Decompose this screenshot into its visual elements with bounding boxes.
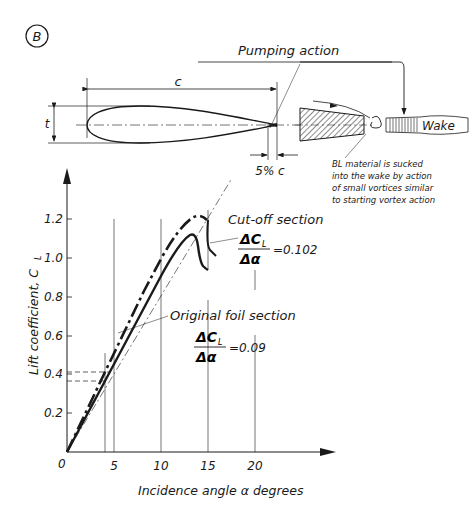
foil-diagram: c t 5% c Pumping action xyxy=(45,43,468,205)
lift-chart: 0.2 0.4 0.6 0.8 1.0 1.2 0 5 10 15 20 xyxy=(26,168,336,498)
svg-text:ΔC: ΔC xyxy=(195,329,218,345)
x-tick-0: 0 xyxy=(58,457,66,471)
x-axis-arrow-icon xyxy=(320,448,336,456)
note-line-1: BL material is sucked xyxy=(332,159,424,169)
cutoff-label: Cut-off section xyxy=(228,212,323,227)
x-tick-20: 20 xyxy=(247,459,263,473)
svg-text:B: B xyxy=(33,29,42,44)
svg-text:L: L xyxy=(262,240,266,249)
svg-text:Δα: Δα xyxy=(195,349,217,365)
svg-text:ΔC: ΔC xyxy=(239,231,262,247)
x-tick-15: 15 xyxy=(200,459,215,473)
original-slope-value: =0.09 xyxy=(229,341,266,355)
y-axis-arrow-icon xyxy=(63,168,71,184)
y-tick-1.2: 1.2 xyxy=(44,212,63,226)
thickness-label: t xyxy=(45,117,51,131)
y-tick-0.8: 0.8 xyxy=(44,290,63,304)
note-line-4: to starting vortex action xyxy=(332,195,435,205)
cut-label: 5% c xyxy=(255,164,285,178)
note-line-2: into the wake by action xyxy=(332,171,432,181)
x-axis-title: Incidence angle α degrees xyxy=(138,483,304,498)
cutoff-slope-value: =0.102 xyxy=(273,243,317,257)
y-axis-title: Lift coefficient, C L xyxy=(26,256,43,375)
svg-text:L: L xyxy=(34,256,43,260)
y-tick-0.6: 0.6 xyxy=(44,329,63,343)
series-original-foil xyxy=(67,234,208,452)
y-tick-0.4: 0.4 xyxy=(44,367,63,381)
svg-text:Δα: Δα xyxy=(239,251,261,267)
airfoil-shape xyxy=(87,106,277,143)
hatched-trailing-edge xyxy=(300,108,364,141)
series-cutoff-section xyxy=(67,216,207,452)
svg-text:Lift coefficient, C: Lift coefficient, C xyxy=(26,269,41,375)
original-label: Original foil section xyxy=(170,308,296,323)
x-tick-5: 5 xyxy=(110,459,118,473)
panel-label: B xyxy=(26,25,48,47)
note-line-3: of small vortices similar xyxy=(332,183,434,193)
chord-label: c xyxy=(174,74,181,89)
pumping-label: Pumping action xyxy=(238,43,339,58)
y-tick-0.2: 0.2 xyxy=(44,406,63,420)
y-tick-1.0: 1.0 xyxy=(44,251,63,265)
x-tick-10: 10 xyxy=(153,459,169,473)
svg-text:L: L xyxy=(218,338,222,347)
wake-label: Wake xyxy=(422,119,455,133)
cutoff-slope-formula: ΔC L Δα =0.102 xyxy=(238,231,317,267)
diagram-canvas: B c t 5% c Pumping action xyxy=(0,0,474,516)
